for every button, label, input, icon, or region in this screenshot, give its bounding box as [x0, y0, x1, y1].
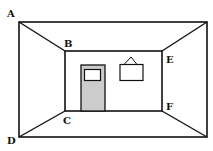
room-diagram: A B C D E F: [0, 0, 213, 151]
label-c: C: [63, 115, 71, 126]
edge-d-c: [19, 111, 65, 137]
label-a: A: [6, 8, 15, 19]
edge-a-b: [19, 22, 65, 51]
door-window: [85, 70, 101, 81]
edge-bottom-right-f: [162, 111, 207, 137]
label-e: E: [166, 54, 174, 65]
label-f: F: [166, 101, 173, 112]
picture-hanger: [124, 57, 137, 65]
label-b: B: [64, 38, 72, 49]
label-d: D: [7, 135, 16, 146]
edge-top-right-e: [162, 22, 207, 51]
picture-frame: [120, 65, 143, 81]
back-wall: [65, 51, 162, 111]
